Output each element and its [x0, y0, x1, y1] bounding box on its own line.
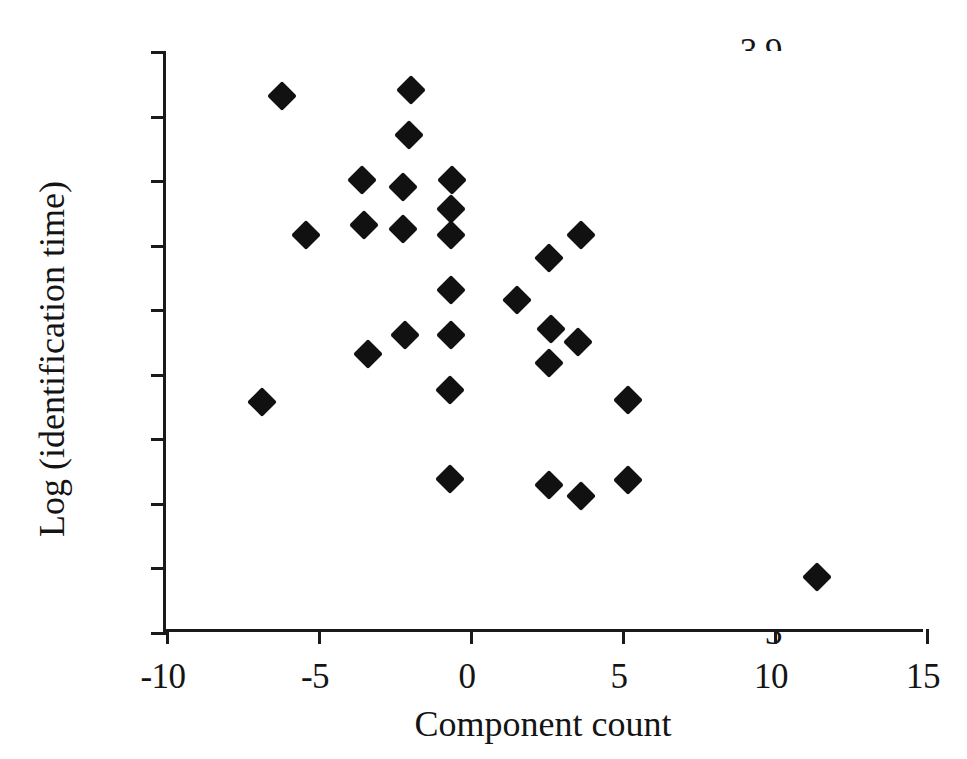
x-axis-title: Component count [163, 706, 923, 742]
data-point-marker [566, 220, 596, 250]
data-point-marker [437, 165, 467, 195]
y-tick-mark [151, 632, 166, 635]
data-point-marker [502, 285, 532, 315]
x-tick-mark [318, 629, 321, 644]
data-point-marker [613, 385, 643, 415]
data-point-marker [353, 340, 383, 370]
data-point-marker [394, 120, 424, 150]
x-tick-mark [622, 629, 625, 644]
data-point-marker [388, 214, 418, 244]
data-point-marker [802, 562, 832, 592]
data-point-marker [347, 165, 377, 195]
y-axis-title: Log (identification time) [34, 29, 70, 689]
data-point-marker [388, 172, 418, 202]
data-point-marker [436, 194, 466, 224]
x-tick-label: 0 [459, 659, 476, 694]
x-tick-label: 15 [906, 659, 940, 694]
x-tick-label: 5 [611, 659, 628, 694]
data-point-marker [247, 387, 277, 417]
data-point-marker [435, 464, 465, 494]
x-tick-mark [774, 629, 777, 644]
data-point-marker [435, 375, 465, 405]
x-tick-mark [470, 629, 473, 644]
data-point-marker [534, 470, 564, 500]
data-point-marker [349, 210, 379, 240]
y-tick-mark [151, 116, 166, 119]
data-point-marker [534, 243, 564, 273]
data-point-marker [436, 275, 466, 305]
data-point-marker [291, 220, 321, 250]
y-tick-mark [151, 51, 166, 54]
x-tick-label: 10 [754, 659, 788, 694]
data-point-marker [390, 320, 420, 350]
y-tick-mark [151, 374, 166, 377]
data-point-marker [267, 81, 297, 111]
data-point-marker [534, 348, 564, 378]
x-tick-mark [926, 629, 929, 644]
y-tick-mark [151, 245, 166, 248]
data-point-marker [436, 220, 466, 250]
y-tick-mark [151, 503, 166, 506]
plot-area [163, 51, 923, 632]
x-tick-mark [166, 629, 169, 644]
data-point-marker [536, 314, 566, 344]
scatter-plot-figure: 33.13.23.33.43.53.63.73.83.9 -10-5051015… [0, 0, 967, 759]
data-point-marker [563, 327, 593, 357]
x-tick-label: -10 [140, 659, 185, 694]
y-tick-mark [151, 438, 166, 441]
y-tick-mark [151, 309, 166, 312]
data-point-marker [613, 465, 643, 495]
y-tick-mark [151, 180, 166, 183]
data-point-marker [436, 320, 466, 350]
y-tick-mark [151, 567, 166, 570]
data-point-marker [566, 482, 596, 512]
x-tick-label: -5 [301, 659, 329, 694]
data-point-marker [396, 75, 426, 105]
